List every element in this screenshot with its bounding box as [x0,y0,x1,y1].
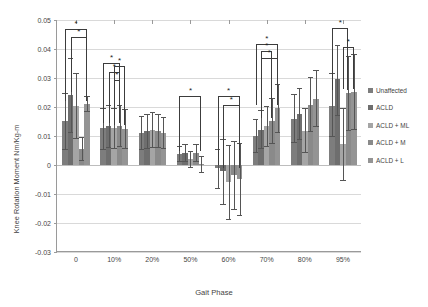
significance-star: * [115,71,118,79]
error-bar-part [188,167,193,168]
error-bar-part [161,117,166,118]
significance-bracket [343,47,354,89]
x-axis-tick-label: 70% [260,256,274,263]
gridline [57,20,361,21]
significance-star: * [268,49,271,57]
error-bar-part [147,114,148,149]
error-bar-part [161,148,166,149]
legend-swatch [368,88,373,93]
y-tick-mark [54,194,57,195]
legend-swatch [368,123,373,128]
error-bar-part [256,119,257,153]
error-bar-part [125,109,126,149]
y-axis-tick-label: 0.02 [17,104,51,111]
x-tick-mark [152,20,153,24]
error-bar [313,70,318,127]
y-axis-tick-label: 0 [17,162,51,169]
y-axis-tick-label: 0.05 [17,17,51,24]
error-bar [199,156,204,173]
error-bar-part [155,114,160,115]
gridline [57,49,361,50]
significance-bracket [114,80,119,123]
error-bar-part [226,219,231,220]
y-tick-mark [54,136,57,137]
error-bar-part [199,172,204,173]
y-tick-mark [54,165,57,166]
y-axis-tick-label: 0.01 [17,133,51,140]
error-bar-part [87,96,88,112]
significance-star: * [339,19,342,27]
significance-bracket [71,37,87,92]
error-bar-part [240,143,241,216]
significance-star: * [118,57,121,65]
gridline [57,223,361,224]
y-axis-tick-label: 0.04 [17,46,51,53]
error-bar-part [163,117,164,149]
significance-star: * [189,87,192,95]
knee-rotation-moment-chart: Knee Rotation Moment Nm/Kg-m 0.050.040.0… [0,0,428,307]
legend-label: ACLD + M [376,139,406,146]
legend-item: ACLD [368,104,426,112]
legend-label: ACLD + L [376,157,404,164]
error-bar-part [82,137,83,161]
legend-label: ACLD [376,104,393,111]
legend-swatch [368,105,373,110]
legend-item: Unaffected [368,86,426,94]
y-axis-tick-label: -0.01 [17,191,51,198]
y-axis-tick-label: 0.03 [17,75,51,82]
legend-item: ACLD + M [368,139,426,147]
x-axis-tick-label: 95% [336,256,350,263]
y-tick-mark [54,78,57,79]
error-bar-part [152,112,153,149]
error-bar-part [275,132,280,133]
error-bar-part [354,54,355,130]
significance-bracket [223,105,239,169]
legend-item: ACLD + L [368,156,426,164]
x-axis-title: Gait Phase [0,288,428,297]
y-tick-mark [54,20,57,21]
error-bar-part [278,84,279,133]
y-tick-mark [54,49,57,50]
gridline [57,252,361,253]
plot-area: 0.050.040.030.020.010-0.01-0.02-0.03010%… [56,20,361,252]
legend-swatch [368,158,373,163]
y-axis-tick-label: -0.03 [17,249,51,256]
x-tick-mark [229,20,230,24]
bar [84,104,89,165]
significance-star: * [347,38,350,46]
error-bar-part [122,148,127,149]
error-bar-part [299,88,300,140]
error-bar-part [340,180,345,181]
error-bar-part [190,151,191,168]
x-axis-tick-label: 0 [74,256,78,263]
x-axis-tick-label: 50% [183,256,197,263]
y-axis-title: Knee Rotation Moment Nm/Kg-m [12,99,26,259]
significance-bracket [261,58,277,105]
legend-label: ACLD + ML [376,122,409,129]
error-bar-part [150,112,155,113]
gridline [57,194,361,195]
x-tick-mark [267,20,268,24]
significance-star: * [230,96,233,104]
error-bar-part [351,129,356,130]
x-axis-tick-label: 60% [222,256,236,263]
error-bar-part [343,108,344,181]
y-tick-mark [54,252,57,253]
zero-line [57,165,361,166]
y-axis-tick-label: -0.02 [17,220,51,227]
y-tick-mark [54,107,57,108]
error-bar-part [316,70,317,127]
error-bar-part [310,77,311,132]
x-axis-tick-label: 10% [107,256,121,263]
error-bar-part [84,111,89,112]
x-tick-mark [343,20,344,24]
error-bar-part [158,114,159,148]
significance-bracket [179,96,201,151]
x-tick-mark [305,20,306,24]
x-axis-tick-label: 20% [145,256,159,263]
legend-item: ACLD + ML [368,121,426,129]
error-bar-part [294,94,295,143]
error-bar-part [305,108,306,153]
error-bar-part [313,126,318,127]
error-bar-part [297,88,302,89]
